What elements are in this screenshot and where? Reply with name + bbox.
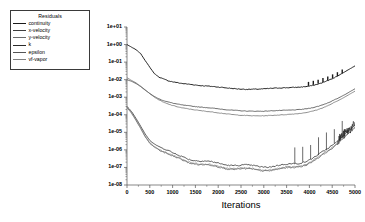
residual-plot: Residuals continuityx-velocityy-velocity… (0, 0, 365, 222)
series-line-x-velocity (127, 80, 355, 112)
axis-lines (124, 27, 355, 188)
series-lines (127, 45, 355, 172)
series-line-continuity (127, 45, 355, 90)
series-line-epsilon (127, 108, 355, 172)
series-line-vf-vapor (127, 107, 355, 171)
plot-canvas (0, 0, 365, 222)
